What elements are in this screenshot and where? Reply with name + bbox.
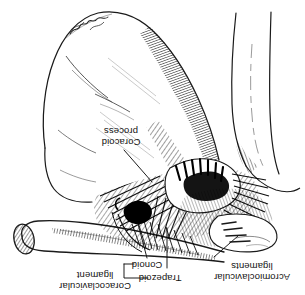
anatomy-line-art bbox=[0, 0, 305, 295]
anatomical-figure: Coracoid process Coracoclavicular ligame… bbox=[0, 0, 305, 295]
label-coracoid-process: Coracoid process bbox=[88, 126, 154, 147]
label-acromioclavicular-ligaments: Acromioclavicular ligaments bbox=[208, 261, 296, 282]
label-coracoclavicular-line1: Coracoclavicular bbox=[49, 281, 141, 292]
label-coracoid-process-line1: Coracoid bbox=[88, 137, 154, 148]
humerus-outline bbox=[232, 12, 300, 192]
label-conoid: Conoid bbox=[127, 259, 167, 270]
label-coracoid-process-line2: process bbox=[88, 126, 154, 137]
label-coracoclavicular-ligament: Coracoclavicular ligament bbox=[49, 270, 141, 291]
label-trapezoid: Trapezoid bbox=[134, 272, 186, 283]
humerus-shading bbox=[236, 140, 258, 174]
label-acromioclavicular-line1: Acromioclavicular bbox=[208, 272, 296, 283]
label-coracoclavicular-line2: ligament bbox=[49, 270, 141, 281]
label-acromioclavicular-line2: ligaments bbox=[208, 261, 296, 272]
